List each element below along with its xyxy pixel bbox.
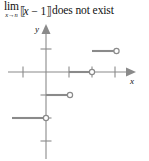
expression-operator: − [31,5,37,17]
open-circle-y-1 [67,92,72,97]
y-axis-label: y [34,24,39,34]
double-bracket-close: ⟧ [46,5,50,17]
expression-variable: x [24,5,29,17]
x-axis-label: x [129,76,134,86]
y-axis-arrow-icon [42,24,51,34]
figure-container: lim x→n ⟦x − 1⟧does not exist x y [0,0,149,161]
open-circle-y2 [114,48,119,53]
limit-operator: lim x→n [4,1,19,18]
step-function-graph: x y [0,18,149,161]
limit-word: lim [4,1,19,11]
limit-expression: ⟦x − 1⟧ [20,5,50,17]
limit-subscript-target: n [14,11,17,18]
open-circle-y-2 [43,115,48,120]
open-circle-y0 [89,69,94,74]
limit-conclusion: does not exist [52,4,114,16]
limit-subscript: x→n [4,11,19,18]
